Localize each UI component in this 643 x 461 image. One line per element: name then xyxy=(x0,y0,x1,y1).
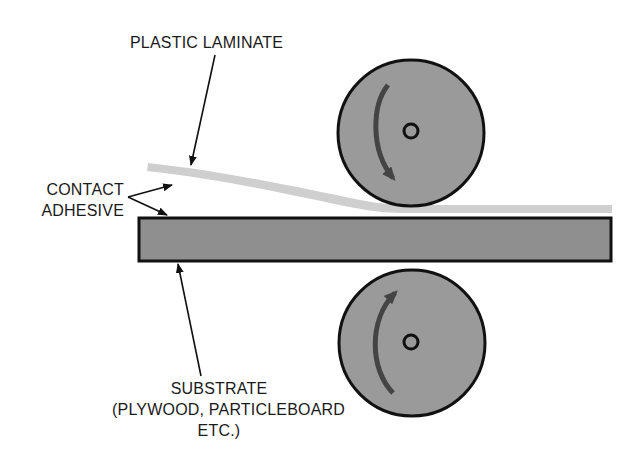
contact-adhesive-label-line1: CONTACT xyxy=(30,179,124,200)
plastic-laminate-label: PLASTIC LAMINATE xyxy=(130,32,283,53)
substrate xyxy=(139,218,611,261)
adhesive-pointer-bottom xyxy=(128,197,167,215)
substrate-label: SUBSTRATE (PLYWOOD, PARTICLEBOARD ETC.) xyxy=(112,378,326,441)
contact-adhesive-label-line2: ADHESIVE xyxy=(30,200,124,221)
substrate-label-line1: SUBSTRATE xyxy=(112,378,326,399)
adhesive-pointer-top xyxy=(128,185,172,197)
contact-adhesive-label: CONTACT ADHESIVE xyxy=(30,179,124,221)
bottom-roller xyxy=(339,270,485,416)
substrate-label-line2: (PLYWOOD, PARTICLEBOARD xyxy=(112,399,326,420)
laminating-diagram: PLASTIC LAMINATE CONTACT ADHESIVE SUBSTR… xyxy=(0,0,643,461)
top-roller xyxy=(338,60,484,206)
leader-lines xyxy=(128,55,215,376)
plastic-laminate-pointer xyxy=(191,55,215,165)
substrate-pointer xyxy=(178,264,201,376)
substrate-label-line3: ETC.) xyxy=(112,420,326,441)
